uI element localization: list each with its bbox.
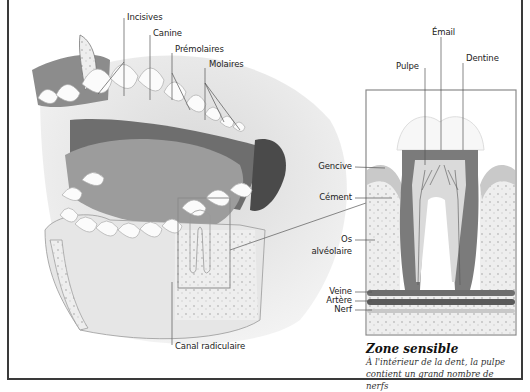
label-alveolaire: alvéolaire [300,246,352,256]
label-os: Os [300,234,352,244]
label-molaires: Molaires [209,59,244,69]
caption-body: À l'intérieur de la dent, la pulpe conti… [366,356,516,392]
label-nerf: Nerf [300,304,352,314]
label-incisives: Incisives [127,12,163,22]
label-canine: Canine [153,28,182,38]
label-email: Émail [432,27,455,37]
label-canal-radiculaire: Canal radiculaire [175,341,245,351]
label-dentine: Dentine [466,53,499,63]
label-premolaires: Prémolaires [175,44,224,54]
label-gencive: Gencive [300,161,352,171]
label-pulpe: Pulpe [396,61,419,71]
vessels [367,290,515,313]
caption-title: Zone sensible [366,342,458,356]
label-cement: Cément [300,192,352,202]
